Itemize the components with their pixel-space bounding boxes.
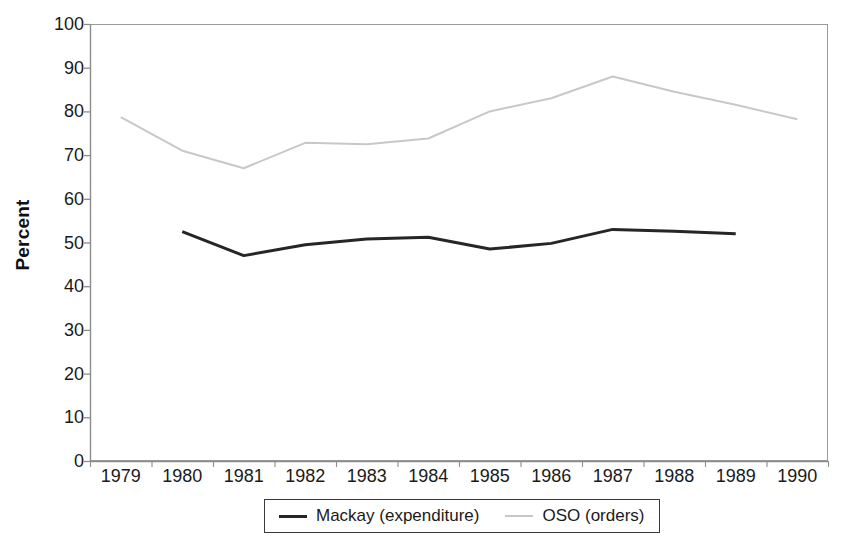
series-line-mackay-expenditure <box>182 229 736 255</box>
legend-label: Mackay (expenditure) <box>316 506 479 526</box>
axis-tick-marks <box>84 25 829 468</box>
legend-entry-mackay-expenditure[interactable]: Mackay (expenditure) <box>279 506 479 526</box>
legend-swatch-line-icon <box>279 515 307 518</box>
legend-label: OSO (orders) <box>542 506 644 526</box>
legend-entry-oso-orders[interactable]: OSO (orders) <box>505 506 644 526</box>
series-line-oso-orders <box>121 76 798 168</box>
plot-area <box>0 0 847 554</box>
line-chart-figure: Percent 0102030405060708090100 197919801… <box>0 0 847 554</box>
data-series-layer <box>121 76 798 255</box>
legend-swatch-line-icon <box>505 515 533 517</box>
chart-legend: Mackay (expenditure)OSO (orders) <box>264 499 660 533</box>
